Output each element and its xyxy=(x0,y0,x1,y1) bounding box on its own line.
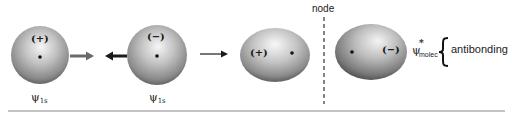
nucleus-dot-3 xyxy=(290,51,294,55)
nucleus-dot-1 xyxy=(38,55,42,59)
ao1-subscript: 1s xyxy=(40,97,48,105)
ao2-subscript: 1s xyxy=(158,97,166,105)
node-label: node xyxy=(312,3,334,14)
arrow-left-dark-icon xyxy=(105,52,127,61)
bond-type-label: antibonding xyxy=(451,43,508,55)
phase-sign-mo-left: (+) xyxy=(250,47,268,58)
antibonding-orbital-diagram: (+) (−) ψ1s ψ1s (+) (−) node ψ * molec a… xyxy=(0,0,512,114)
nucleus-dot-4 xyxy=(350,50,354,54)
phase-sign-ao1: (+) xyxy=(31,33,49,44)
mo-label: ψ * molec xyxy=(412,44,421,57)
phase-sign-mo-right: (−) xyxy=(382,44,400,55)
psi-symbol: ψ xyxy=(149,91,158,104)
ao2-label: ψ1s xyxy=(149,91,166,105)
psi-symbol: ψ xyxy=(31,91,40,104)
nucleus-dot-2 xyxy=(155,54,159,58)
mo-superscript-star: * xyxy=(419,38,424,48)
reaction-arrow-icon xyxy=(200,51,228,58)
mo-subscript: molec xyxy=(419,51,438,58)
arrow-right-gray-icon xyxy=(70,52,94,61)
ao1-label: ψ1s xyxy=(31,91,48,105)
curly-brace-icon xyxy=(439,38,448,66)
phase-sign-ao2: (−) xyxy=(147,31,165,42)
